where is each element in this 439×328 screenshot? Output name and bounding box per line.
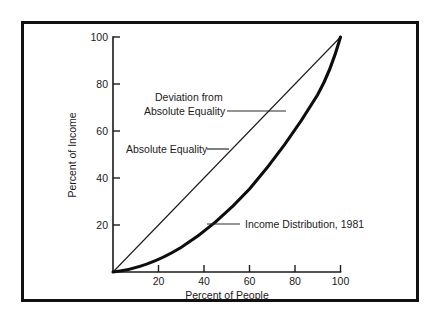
x-tick-label-40: 40 <box>198 275 210 287</box>
annotation-deviation-line2: Absolute Equality <box>144 105 226 117</box>
x-tick-label-80: 80 <box>289 275 301 287</box>
x-axis-ticks <box>159 265 341 272</box>
annotation-absolute-equality-text: Absolute Equality <box>126 143 208 155</box>
lorenz-curve-plot: 100 80 60 40 20 20 40 60 80 100 Percent … <box>0 0 439 328</box>
x-tick-label-100: 100 <box>332 275 350 287</box>
y-axis-title: Percent of Income <box>66 112 78 197</box>
x-axis-title: Percent of People <box>185 289 269 301</box>
y-axis-tick-labels: 100 80 60 40 20 <box>90 31 108 231</box>
annotation-absolute-equality: Absolute Equality <box>126 143 229 155</box>
x-axis-tick-labels: 20 40 60 80 100 <box>153 275 350 287</box>
y-tick-label-60: 60 <box>96 125 108 137</box>
y-tick-label-40: 40 <box>96 172 108 184</box>
y-tick-label-80: 80 <box>96 78 108 90</box>
x-tick-label-20: 20 <box>153 275 165 287</box>
annotation-income-distribution: Income Distribution, 1981 <box>207 218 364 230</box>
x-tick-label-60: 60 <box>244 275 256 287</box>
y-tick-label-100: 100 <box>90 31 108 43</box>
annotation-deviation: Deviation from Absolute Equality <box>144 91 286 117</box>
annotation-deviation-line1: Deviation from <box>155 91 223 103</box>
chart-figure: 100 80 60 40 20 20 40 60 80 100 Percent … <box>0 0 439 328</box>
y-axis-ticks <box>113 37 120 225</box>
annotation-income-distribution-text: Income Distribution, 1981 <box>245 218 364 230</box>
y-tick-label-20: 20 <box>96 219 108 231</box>
